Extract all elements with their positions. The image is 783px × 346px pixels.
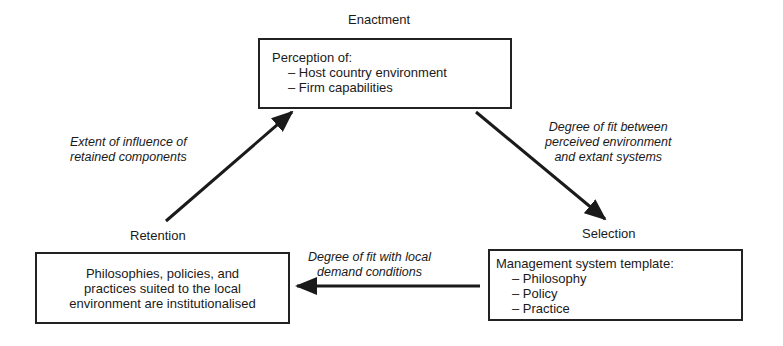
enactment-box-heading: Perception of: [272,50,510,65]
retention-box-line: environment are institutionalised [37,296,288,311]
enactment-box-list: Host country environment Firm capabiliti… [272,65,510,95]
edge-line: and extant systems [545,150,671,165]
edge-label-selection-to-retention: Degree of fit with local demand conditio… [308,250,431,280]
selection-label: Selection [582,226,635,241]
edge-label-enactment-to-selection: Degree of fit between perceived environm… [545,120,671,165]
selection-item-practice: Practice [512,301,741,316]
edge-line: Extent of influence of [70,135,187,150]
selection-item-philosophy: Philosophy [512,271,741,286]
selection-box-list: Philosophy Policy Practice [496,271,741,316]
selection-item-policy: Policy [512,286,741,301]
retention-box-line: Philosophies, policies, and [37,266,288,281]
arrow-retention-to-enactment [166,112,292,221]
retention-label: Retention [130,228,186,243]
edge-line: Degree of fit with local [308,250,431,265]
retention-box-line: practices suited to the local [37,281,288,296]
edge-line: Degree of fit between [545,120,671,135]
selection-box-heading: Management system template: [496,256,741,271]
enactment-box: Perception of: Host country environment … [258,38,512,109]
enactment-item-host-country: Host country environment [288,65,510,80]
enactment-label: Enactment [348,12,410,27]
enactment-item-firm-capabilities: Firm capabilities [288,80,510,95]
edge-label-retention-to-enactment: Extent of influence of retained componen… [70,135,187,165]
retention-box: Philosophies, policies, and practices su… [35,252,290,324]
edge-line: retained components [70,150,187,165]
selection-box: Management system template: Philosophy P… [488,249,743,321]
edge-line: demand conditions [308,265,431,280]
edge-line: perceived environment [545,135,671,150]
